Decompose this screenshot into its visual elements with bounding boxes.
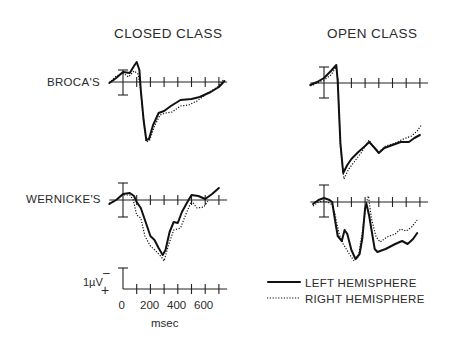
- left-hemisphere-waveform: [109, 62, 224, 140]
- panel-wernickes-closed-class: [109, 183, 227, 261]
- scale-minus-sign: –: [103, 266, 110, 280]
- x-tick-label-600: 600: [194, 299, 213, 311]
- right-hemisphere-waveform: [310, 67, 421, 179]
- x-tick-label-400: 400: [167, 299, 186, 311]
- left-hemisphere-waveform: [313, 198, 417, 259]
- panel-brocas-open-class: [310, 65, 428, 179]
- column-title-open-class: OPEN CLASS: [327, 26, 417, 41]
- calibration-axis: [118, 268, 227, 294]
- scale-plus-sign: +: [101, 282, 109, 298]
- panel-brocas-closed-class: [109, 62, 227, 142]
- x-tick-label-0: 0: [119, 299, 125, 311]
- column-title-closed-class: CLOSED CLASS: [114, 26, 222, 41]
- row-label-brocas: BROCA'S: [47, 76, 100, 88]
- row-label-wernickes: WERNICKE'S: [26, 193, 101, 205]
- x-tick-label-200: 200: [140, 299, 159, 311]
- legend-label-right-hemisphere: RIGHT HEMISPHERE: [305, 293, 425, 305]
- x-axis-label: msec: [151, 317, 179, 329]
- right-hemisphere-waveform: [109, 195, 208, 261]
- legend-label-left-hemisphere: LEFT HEMISPHERE: [305, 277, 417, 289]
- panel-wernickes-open-class: [310, 185, 428, 261]
- erp-figure: CLOSED CLASS OPEN CLASS BROCA'S WERNICKE…: [0, 0, 450, 341]
